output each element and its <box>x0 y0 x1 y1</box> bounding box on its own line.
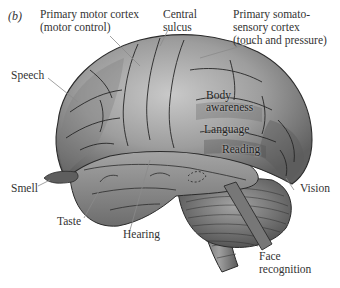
label-primary-somatosensory-cortex: Primary somato- sensory cortex (touch an… <box>233 8 327 47</box>
label-line: sensory cortex <box>233 21 327 34</box>
label-primary-motor-cortex: Primary motor cortex (motor control) <box>40 8 139 34</box>
label-speech: Speech <box>11 69 44 82</box>
label-line: Face <box>259 250 311 263</box>
label-hearing: Hearing <box>123 228 160 241</box>
brain-diagram: (b) Primary motor cortex (motor control)… <box>0 0 340 288</box>
label-smell: Smell <box>11 182 38 195</box>
label-line: Primary somato- <box>233 8 327 21</box>
label-taste: Taste <box>57 215 81 228</box>
label-body-awareness: Body awareness <box>206 89 253 113</box>
label-line: Central <box>163 8 197 21</box>
label-reading: Reading <box>222 143 260 155</box>
label-line: recognition <box>259 263 311 276</box>
label-face-recognition: Face recognition <box>259 250 311 276</box>
label-line: awareness <box>206 101 253 113</box>
label-line: (motor control) <box>40 21 139 34</box>
label-line: sulcus <box>163 21 197 34</box>
label-line: Primary motor cortex <box>40 8 139 21</box>
label-line: Body <box>206 89 253 101</box>
label-line: (touch and pressure) <box>233 34 327 47</box>
label-central-sulcus: Central sulcus <box>163 8 197 34</box>
label-vision: Vision <box>300 182 330 195</box>
olfactory-bulb <box>44 171 78 183</box>
label-language: Language <box>204 123 249 135</box>
panel-label: (b) <box>8 9 22 24</box>
